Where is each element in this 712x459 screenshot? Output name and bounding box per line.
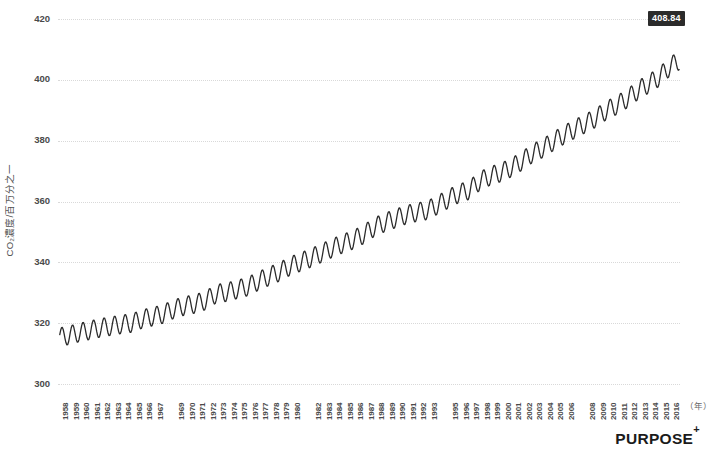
y-axis-title-text: CO₂濃度/百万分之一	[4, 164, 15, 257]
y-tick-320: 320	[16, 318, 50, 328]
co2-concentration-chart: CO₂濃度/百万分之一 420 400 380 360 340 320 300 …	[0, 0, 712, 459]
y-tick-380: 380	[16, 135, 50, 145]
x-tick-1970: 1970	[189, 403, 197, 420]
x-tick-2006: 2006	[568, 403, 576, 420]
x-tick-1958: 1958	[62, 403, 70, 420]
x-tick-1998: 1998	[484, 403, 492, 420]
x-tick-1999: 1999	[494, 403, 502, 420]
x-tick-1964: 1964	[125, 403, 133, 420]
x-tick-1993: 1993	[431, 403, 439, 420]
y-tick-400: 400	[16, 74, 50, 84]
x-tick-1973: 1973	[220, 403, 228, 420]
x-tick-1988: 1988	[378, 403, 386, 420]
plot-area	[58, 19, 680, 384]
x-tick-1985: 1985	[347, 403, 355, 420]
x-tick-1959: 1959	[73, 403, 81, 420]
x-tick-1980: 1980	[294, 403, 302, 420]
gridline-300	[58, 384, 680, 385]
x-tick-1976: 1976	[252, 403, 260, 420]
x-tick-1978: 1978	[273, 403, 281, 420]
x-tick-2009: 2009	[600, 403, 608, 420]
x-tick-2000: 2000	[505, 403, 513, 420]
x-tick-1971: 1971	[199, 403, 207, 420]
x-tick-1963: 1963	[115, 403, 123, 420]
value-annotation-badge: 408.84	[648, 11, 685, 26]
x-tick-1977: 1977	[262, 403, 270, 420]
x-tick-2010: 2010	[610, 403, 618, 420]
brand-logo-text: PURPOSE	[615, 430, 693, 447]
y-tick-360: 360	[16, 196, 50, 206]
x-tick-2015: 2015	[663, 403, 671, 420]
x-tick-1997: 1997	[473, 403, 481, 420]
x-tick-1972: 1972	[210, 403, 218, 420]
x-tick-2005: 2005	[557, 403, 565, 420]
x-tick-2012: 2012	[631, 403, 639, 420]
x-axis-tick-labels: 1958195919601961196219631964196519661967…	[58, 388, 680, 428]
x-tick-2002: 2002	[526, 403, 534, 420]
x-tick-1987: 1987	[368, 403, 376, 420]
x-tick-2014: 2014	[652, 403, 660, 420]
x-tick-1990: 1990	[399, 403, 407, 420]
x-tick-1995: 1995	[452, 403, 460, 420]
y-axis-title: CO₂濃度/百万分之一	[2, 150, 18, 270]
brand-logo: PURPOSE+	[615, 428, 700, 448]
x-tick-1969: 1969	[178, 403, 186, 420]
x-tick-2011: 2011	[621, 403, 629, 420]
x-tick-1967: 1967	[157, 403, 165, 420]
x-tick-1974: 1974	[231, 403, 239, 420]
x-tick-1960: 1960	[83, 403, 91, 420]
x-tick-1982: 1982	[315, 403, 323, 420]
x-tick-1984: 1984	[336, 403, 344, 420]
x-tick-2004: 2004	[547, 403, 555, 420]
x-tick-1991: 1991	[410, 403, 418, 420]
x-tick-1966: 1966	[146, 403, 154, 420]
y-tick-340: 340	[16, 257, 50, 267]
x-tick-1983: 1983	[326, 403, 334, 420]
x-tick-2008: 2008	[589, 403, 597, 420]
x-tick-2016: 2016	[673, 403, 681, 420]
x-tick-1965: 1965	[136, 403, 144, 420]
x-tick-2013: 2013	[642, 403, 650, 420]
y-tick-420: 420	[16, 14, 50, 24]
x-tick-1986: 1986	[357, 403, 365, 420]
x-axis-unit-label: （年）	[685, 399, 712, 411]
x-tick-1989: 1989	[389, 403, 397, 420]
x-tick-1992: 1992	[420, 403, 428, 420]
brand-logo-superscript: +	[693, 423, 700, 435]
x-tick-2001: 2001	[515, 403, 523, 420]
x-tick-1962: 1962	[104, 403, 112, 420]
co2-series-line	[58, 19, 680, 384]
x-tick-1975: 1975	[241, 403, 249, 420]
y-tick-300: 300	[16, 379, 50, 389]
x-tick-2003: 2003	[536, 403, 544, 420]
x-tick-1996: 1996	[463, 403, 471, 420]
x-tick-1961: 1961	[94, 403, 102, 420]
x-tick-1979: 1979	[283, 403, 291, 420]
